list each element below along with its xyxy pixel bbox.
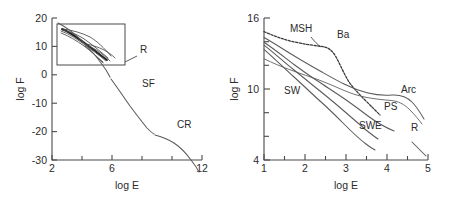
y-axis-title-right: log F xyxy=(228,77,240,100)
chart-svg-right: 16 10 4 1 2 3 4 5 log E log F xyxy=(226,0,452,197)
x-axis-title-left: log E xyxy=(115,179,139,191)
y-ticklabel-10: 10 xyxy=(35,40,47,52)
curve-SW-lower xyxy=(264,49,375,150)
x-ticklabel-3: 3 xyxy=(343,162,349,174)
y-ticklabel-4: 4 xyxy=(253,154,259,166)
y-ticklabel-10: 10 xyxy=(247,83,259,95)
x-ticklabel-4: 4 xyxy=(384,162,390,174)
curve-label-SWE: SWE xyxy=(359,120,382,131)
y-ticklabel-neg30: -30 xyxy=(32,154,47,166)
x-ticklabel-2: 2 xyxy=(49,162,55,174)
y-ticklabel-0: 0 xyxy=(41,68,47,80)
figure-container: 20 10 0 -10 -20 -30 2 6 12 log E log F xyxy=(0,0,452,197)
y-ticklabel-neg20: -20 xyxy=(32,125,47,137)
curve-label-Ba: Ba xyxy=(337,29,350,40)
curve-label-R-right: R xyxy=(411,122,418,133)
y-ticklabel-20: 20 xyxy=(35,12,47,24)
y-ticklabel-16: 16 xyxy=(247,12,259,24)
y-axis-title-left: log F xyxy=(14,77,26,100)
chart-panel-right: 16 10 4 1 2 3 4 5 log E log F xyxy=(226,0,452,197)
y-ticklabel-neg10: -10 xyxy=(32,97,47,109)
x-ticklabel-1: 1 xyxy=(261,162,267,174)
curve-label-MSH: MSH xyxy=(290,23,312,34)
x-axis-title-right: log E xyxy=(334,179,358,191)
chart-svg-left: 20 10 0 -10 -20 -30 2 6 12 log E log F xyxy=(0,0,226,197)
x-ticklabel-12: 12 xyxy=(196,162,208,174)
curve-label-R-left: R xyxy=(140,44,147,55)
curve-label-SW: SW xyxy=(284,85,301,96)
x-ticklabel-5: 5 xyxy=(425,162,431,174)
curve-label-CR-left: CR xyxy=(177,119,191,130)
inset-detail-box xyxy=(57,24,125,65)
chart-panel-left: 20 10 0 -10 -20 -30 2 6 12 log E log F xyxy=(0,0,226,197)
x-ticklabel-6: 6 xyxy=(109,162,115,174)
curve-label-Arc: Arc xyxy=(401,84,416,95)
x-ticklabel-2: 2 xyxy=(302,162,308,174)
curve-label-SF-left: SF xyxy=(142,78,155,89)
inset-leader-line xyxy=(125,56,137,62)
curve-CR-left xyxy=(155,135,199,172)
curve-R-right xyxy=(412,142,426,156)
curve-label-PS: PS xyxy=(384,101,398,112)
curve-Ba xyxy=(264,38,424,120)
